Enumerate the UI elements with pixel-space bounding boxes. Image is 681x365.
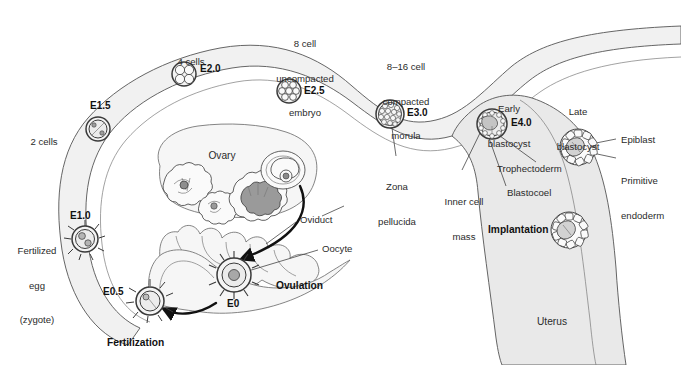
label-fertilized-egg-line3: (zygote) [18, 314, 57, 326]
stage-label-e15: E1.5 [90, 100, 111, 112]
label-uterus: Uterus [537, 316, 567, 328]
stage-label-e10: E1.0 [70, 210, 91, 222]
label-zona-line1: Zona [378, 181, 416, 193]
label-late-blastocyst: Late blastocyst [557, 83, 600, 175]
embryo-two-cell-e15 [86, 117, 110, 141]
label-late-blastocyst-line1: Late [557, 106, 600, 118]
label-zona-line2: pellucida [378, 216, 416, 228]
label-eight-cell-line2: uncompacted [276, 73, 334, 85]
label-compacted-morula: 8–16 cell compacted morula [383, 38, 430, 165]
antral-follicle [261, 151, 305, 189]
label-icm-line2: mass [445, 231, 484, 243]
label-early-blastocyst: Early blastocyst [488, 80, 531, 172]
stage-label-e05: E0.5 [103, 286, 124, 298]
label-early-blastocyst-line1: Early [488, 103, 531, 115]
label-morula-line3: morula [383, 130, 430, 142]
label-oviduct: Oviduct [300, 214, 333, 226]
embryo-development-diagram: .tis { fill:#f1f1f1; stroke:#555; stroke… [0, 0, 681, 365]
label-four-cells: 4 cells [177, 33, 204, 91]
label-epiblast: Epiblast [621, 134, 655, 146]
label-morula-line1: 8–16 cell [383, 61, 430, 73]
label-morula-line2: compacted [383, 96, 430, 108]
label-icm-line1: Inner cell [445, 196, 484, 208]
label-prim-endoderm-line1: Primitive [621, 175, 664, 187]
label-inner-cell-mass: Inner cell mass [445, 173, 484, 265]
label-eight-cell-embryo: 8 cell uncompacted embryo [276, 15, 334, 142]
label-two-cells-line1: 2 cells [30, 136, 57, 148]
label-two-cells: 2 cells [30, 113, 57, 171]
label-primitive-endoderm: Primitive endoderm [621, 152, 664, 244]
label-zona-pellucida: Zona pellucida [378, 158, 416, 250]
label-eight-cell-line1: 8 cell [276, 38, 334, 50]
label-fertilized-egg-line2: egg [18, 280, 57, 292]
label-fertilized-egg-line1: Fertilized [18, 245, 57, 257]
label-fertilization: Fertilization [107, 337, 164, 349]
label-early-blastocyst-line2: blastocyst [488, 138, 531, 150]
label-four-cells-line1: 4 cells [177, 56, 204, 68]
stage-label-e0: E0 [227, 298, 239, 310]
label-blastocoel: Blastocoel [507, 187, 551, 199]
label-oocyte: Oocyte [322, 243, 352, 255]
label-prim-endoderm-line2: endoderm [621, 210, 664, 222]
label-trophectoderm: Trophectoderm [497, 163, 562, 175]
label-ovary: Ovary [208, 150, 235, 162]
label-implantation: Implantation [488, 224, 549, 236]
label-ovulation: Ovulation [276, 280, 323, 292]
label-late-blastocyst-line2: blastocyst [557, 141, 600, 153]
label-fertilized-egg: Fertilized egg (zygote) [18, 222, 57, 349]
label-eight-cell-line3: embryo [276, 107, 334, 119]
diagram-artwork: .tis { fill:#f1f1f1; stroke:#555; stroke… [0, 0, 681, 365]
